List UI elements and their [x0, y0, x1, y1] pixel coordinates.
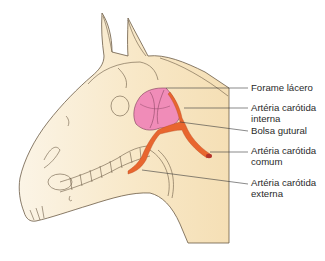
horse-head-outline	[19, 13, 229, 243]
label-arteria-carotida-externa: Artéria carótida externa	[251, 178, 316, 199]
label-arteria-carotida-interna: Artéria carótida interna	[251, 103, 316, 124]
label-bolsa-gutural: Bolsa gutural	[251, 126, 307, 137]
label-forame-lacero: Forame lácero	[251, 83, 313, 94]
label-arteria-carotida-comum: Artéria carótida comum	[251, 146, 316, 167]
